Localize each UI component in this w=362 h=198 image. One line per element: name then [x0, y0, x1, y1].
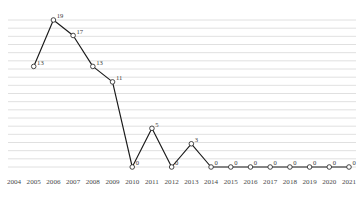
data-point-label: 11 — [116, 74, 122, 81]
data-point-label: 0 — [313, 159, 317, 166]
plot-area: 1319171311050300000000 — [0, 0, 362, 176]
data-point-marker — [110, 80, 115, 85]
x-tick-label: 2013 — [180, 178, 202, 186]
data-point-marker — [71, 33, 76, 38]
data-point-marker — [228, 165, 233, 170]
x-tick-label: 2006 — [42, 178, 64, 186]
x-tick-label: 2007 — [62, 178, 84, 186]
data-point-marker — [307, 165, 312, 170]
data-point-label: 0 — [254, 159, 258, 166]
data-point-marker — [91, 64, 96, 69]
data-point-marker — [268, 165, 273, 170]
data-point-label: 5 — [155, 121, 159, 128]
data-point-label: 19 — [57, 12, 64, 19]
data-point-marker — [169, 165, 174, 170]
data-point-label: 0 — [352, 159, 356, 166]
data-point-label: 0 — [234, 159, 238, 166]
x-tick-label: 2010 — [121, 178, 143, 186]
gridlines-group — [8, 20, 356, 167]
data-point-label: 0 — [274, 159, 278, 166]
x-tick-label: 2017 — [259, 178, 281, 186]
data-point-marker — [51, 18, 56, 23]
data-point-marker — [347, 165, 352, 170]
data-point-marker — [248, 165, 253, 170]
data-point-marker — [150, 126, 155, 131]
x-tick-label: 2005 — [23, 178, 45, 186]
x-tick-label: 2018 — [279, 178, 301, 186]
x-axis-tick-labels: 2004200520062007200820092010201120122013… — [0, 178, 362, 198]
data-point-label: 13 — [37, 59, 44, 66]
x-tick-label: 2009 — [102, 178, 124, 186]
data-point-label: 0 — [333, 159, 337, 166]
data-point-marker — [31, 64, 36, 69]
data-point-label: 13 — [96, 59, 103, 66]
data-point-label: 0 — [214, 159, 218, 166]
x-tick-label: 2008 — [82, 178, 104, 186]
data-point-marker — [288, 165, 293, 170]
data-point-marker — [130, 165, 135, 170]
x-tick-label: 2012 — [161, 178, 183, 186]
data-point-label: 0 — [175, 159, 179, 166]
chart-canvas: 1319171311050300000000 — [0, 0, 362, 176]
data-point-label: 0 — [293, 159, 297, 166]
point-labels-group: 1319171311050300000000 — [37, 12, 356, 166]
x-tick-label: 2021 — [338, 178, 360, 186]
x-tick-label: 2019 — [299, 178, 321, 186]
data-point-label: 0 — [136, 159, 140, 166]
data-point-marker — [189, 141, 194, 146]
x-tick-label: 2020 — [318, 178, 340, 186]
data-point-label: 17 — [77, 28, 84, 35]
x-tick-label: 2016 — [239, 178, 261, 186]
line-chart: 1319171311050300000000 20042005200620072… — [0, 0, 362, 198]
data-point-marker — [327, 165, 332, 170]
x-tick-label: 2011 — [141, 178, 163, 186]
x-tick-label: 2015 — [220, 178, 242, 186]
data-point-marker — [209, 165, 214, 170]
x-tick-label: 2014 — [200, 178, 222, 186]
x-tick-label: 2004 — [3, 178, 25, 186]
